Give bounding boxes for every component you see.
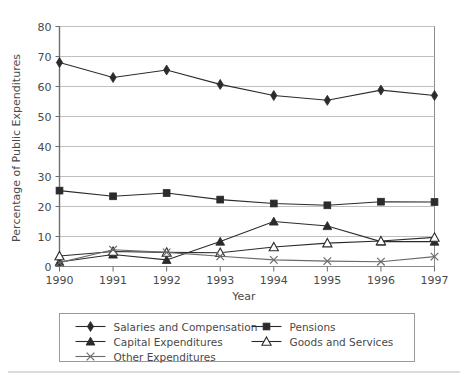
x-tick-label: 1990	[46, 274, 74, 287]
chart-legend: Salaries and CompensationPensionsCapital…	[60, 314, 415, 363]
legend-label: Capital Expenditures	[114, 336, 223, 348]
legend-label: Goods and Services	[290, 336, 394, 348]
y-tick-label: 60	[38, 81, 52, 94]
chart-figure: 01020304050607080 1990199119921993199419…	[0, 0, 468, 382]
x-tick-label: 1992	[153, 274, 181, 287]
data-point-filled-square	[56, 187, 63, 194]
y-tick-label: 10	[38, 231, 52, 244]
expenditure-line-chart: 01020304050607080 1990199119921993199419…	[0, 0, 468, 382]
data-point-filled-square	[263, 323, 270, 330]
y-tick-label: 50	[38, 111, 52, 124]
legend-label: Other Expenditures	[114, 351, 216, 363]
x-tick-label: 1991	[99, 274, 127, 287]
y-tick-label: 70	[38, 51, 52, 64]
y-tick-label: 40	[38, 141, 52, 154]
x-tick-label: 1995	[313, 274, 341, 287]
data-point-filled-square	[217, 196, 224, 203]
legend-label: Pensions	[290, 321, 336, 333]
x-tick-label: 1996	[367, 274, 395, 287]
data-point-filled-square	[110, 193, 117, 200]
x-tick-label: 1994	[260, 274, 288, 287]
data-point-filled-square	[163, 190, 170, 197]
x-axis-title: Year	[231, 290, 256, 303]
data-point-filled-square	[270, 200, 277, 207]
legend-label: Salaries and Compensation	[114, 321, 258, 333]
x-tick-label: 1993	[206, 274, 234, 287]
y-tick-label: 30	[38, 171, 52, 184]
data-point-filled-square	[431, 199, 438, 206]
y-tick-label: 0	[45, 261, 52, 274]
y-tick-label: 20	[38, 201, 52, 214]
x-tick-label: 1997	[421, 274, 449, 287]
y-tick-label: 80	[38, 21, 52, 34]
data-point-filled-square	[324, 202, 331, 209]
y-axis-title: Percentage of Public Expenditures	[10, 54, 23, 242]
data-point-filled-square	[378, 198, 385, 205]
